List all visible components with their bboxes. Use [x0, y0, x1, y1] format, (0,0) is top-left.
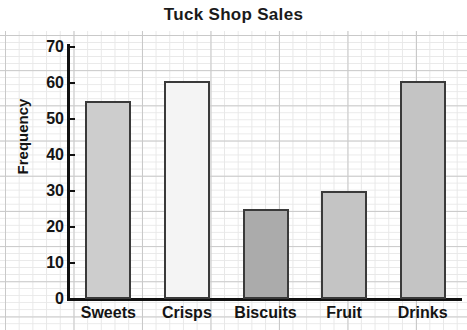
- y-axis-tick-label: 70: [34, 39, 64, 55]
- x-axis-category-label: Drinks: [383, 302, 462, 324]
- y-axis-tick-label: 10: [34, 255, 64, 271]
- x-axis-category-label: Fruit: [305, 302, 384, 324]
- bar: [164, 81, 210, 299]
- bar: [321, 191, 367, 299]
- x-axis-category-labels: SweetsCrispsBiscuitsFruitDrinks: [69, 302, 462, 328]
- x-axis-category-label: Sweets: [69, 302, 148, 324]
- chart-title: Tuck Shop Sales: [0, 4, 467, 26]
- y-axis-tick-label: 40: [34, 147, 64, 163]
- y-axis-tick-label: 30: [34, 183, 64, 199]
- bar: [243, 209, 289, 299]
- bar-chart: Tuck Shop Sales 010203040506070 Frequenc…: [0, 0, 467, 330]
- y-axis-title: Frequency: [14, 77, 31, 197]
- bar: [400, 81, 446, 299]
- x-axis-category-label: Biscuits: [226, 302, 305, 324]
- y-axis-tick-label: 0: [34, 291, 64, 307]
- y-axis-tick-labels: 010203040506070: [28, 47, 64, 299]
- bar: [85, 101, 131, 299]
- y-axis-tick-label: 50: [34, 111, 64, 127]
- plot-area: [69, 47, 462, 299]
- y-axis-tick-label: 60: [34, 75, 64, 91]
- x-axis-category-label: Crisps: [148, 302, 227, 324]
- y-axis-tick-label: 20: [34, 219, 64, 235]
